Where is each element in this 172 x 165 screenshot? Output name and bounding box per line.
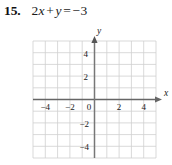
x-tick-label-neg4: −4: [41, 102, 51, 112]
x-tick-label-2: 2: [117, 102, 122, 112]
y-tick-label-2: 2: [84, 72, 89, 82]
problem-number: 15.: [4, 3, 21, 19]
y-axis-label: y: [96, 26, 102, 36]
y-tick-label-neg2: −2: [79, 119, 89, 129]
x-tick-label-4: 4: [141, 102, 146, 112]
equation-variable-y: y: [56, 3, 62, 18]
equation: 2x+y=−3: [32, 3, 88, 19]
y-tick-label-4: 4: [84, 49, 89, 59]
equation-right-side: −3: [73, 3, 88, 18]
equation-coefficient: 2: [32, 3, 39, 18]
y-axis-arrowhead: [91, 36, 97, 43]
x-axis-label: x: [163, 88, 169, 98]
exercise-item: 15. 2x+y=−3: [0, 0, 172, 165]
coordinate-graph: y x −4 −2 0 2 4 4 2 −2 −4: [0, 26, 172, 165]
equation-variable-x: x: [39, 3, 45, 18]
x-axis-arrowhead: [155, 96, 162, 102]
origin-label: 0: [87, 102, 92, 112]
graph-svg: y x −4 −2 0 2 4 4 2 −2 −4: [0, 26, 172, 165]
equation-equals-operator: =: [63, 3, 71, 18]
y-tick-label-neg4: −4: [79, 142, 89, 152]
equation-plus-operator: +: [46, 3, 54, 18]
x-tick-label-neg2: −2: [65, 102, 75, 112]
problem-line: 15. 2x+y=−3: [4, 3, 87, 23]
